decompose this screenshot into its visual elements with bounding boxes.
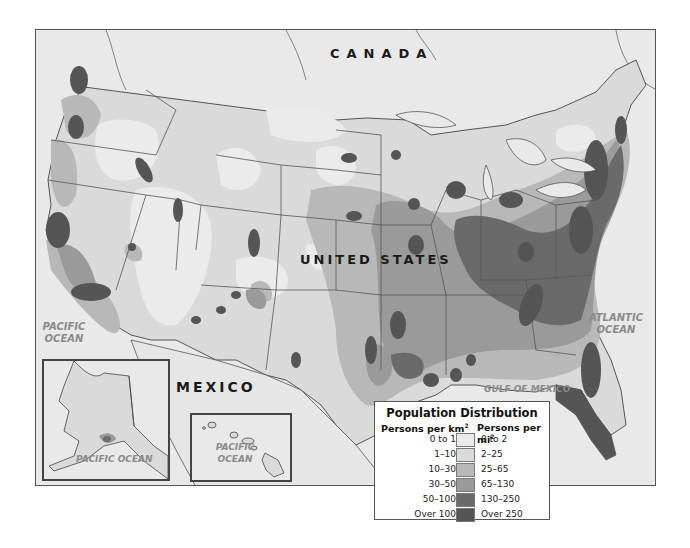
legend-swatch — [456, 493, 475, 507]
legend-row: 30–50 65–130 — [375, 478, 551, 493]
label-atlantic-ocean: ATLANTIC OCEAN — [581, 312, 651, 336]
legend-title: Population Distribution — [375, 406, 549, 420]
legend-swatch — [456, 508, 475, 522]
legend-row: 50–100 130–250 — [375, 493, 551, 508]
hawaii-inset: PACIFIC OCEAN — [190, 413, 292, 482]
label-united-states: UNITED STATES — [300, 252, 452, 267]
legend-swatch — [456, 463, 475, 477]
label-mexico: MEXICO — [176, 379, 256, 395]
legend-row: 10–30 25–65 — [375, 463, 551, 478]
label-alaska-pacific-ocean: PACIFIC OCEAN — [76, 453, 153, 465]
map-frame: CANADA UNITED STATES MEXICO PACIFIC OCEA… — [35, 29, 656, 486]
legend-row: Over 100 Over 250 — [375, 508, 551, 523]
legend-swatch — [456, 478, 475, 492]
legend-swatch — [456, 448, 475, 462]
label-gulf-of-mexico: GULF OF MEXICO — [484, 383, 570, 395]
label-hawaii-pacific-ocean: PACIFIC OCEAN — [210, 441, 260, 465]
legend-row: 0 to 1 0 to 2 — [375, 433, 551, 448]
label-pacific-ocean: PACIFIC OCEAN — [35, 321, 94, 345]
legend: Population Distribution Persons per km2 … — [374, 401, 550, 520]
legend-swatch — [456, 433, 475, 447]
legend-row: 1–10 2–25 — [375, 448, 551, 463]
alaska-inset: PACIFIC OCEAN — [42, 359, 170, 481]
label-canada: CANADA — [330, 46, 433, 61]
